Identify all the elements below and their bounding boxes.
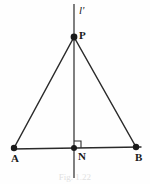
vertex-label-p: P bbox=[79, 30, 86, 41]
vertex-label-a: A bbox=[11, 153, 19, 164]
geometry-canvas bbox=[0, 0, 150, 184]
vertex-label-n: N bbox=[78, 151, 86, 162]
segment-pa bbox=[14, 37, 74, 148]
segment-pb bbox=[74, 37, 136, 147]
figure-caption: Fig. 1.22 bbox=[0, 172, 150, 182]
vertex-dot-n bbox=[71, 145, 77, 151]
vertex-dot-a bbox=[11, 145, 17, 151]
vertex-dot-p bbox=[71, 34, 78, 41]
geometry-figure: l' P A B N Fig. 1.22 bbox=[0, 0, 150, 184]
vertex-label-b: B bbox=[135, 152, 142, 163]
line-label-l-prime: l' bbox=[79, 5, 84, 16]
vertex-dot-b bbox=[133, 144, 139, 150]
